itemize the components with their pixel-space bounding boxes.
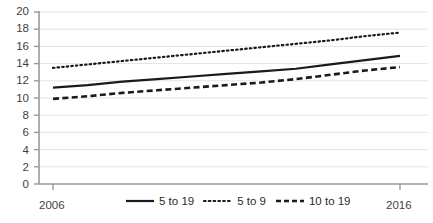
chart-canvas	[0, 0, 433, 223]
ytick-label-16: 16	[5, 41, 29, 52]
legend-key-dashed-icon	[275, 196, 305, 206]
legend-label-5-to-19: 5 to 19	[159, 195, 194, 207]
legend-entry-5-to-19[interactable]: 5 to 19	[125, 195, 194, 207]
legend-label-10-to-19: 10 to 19	[309, 195, 351, 207]
xtick-label-2016: 2016	[386, 199, 412, 211]
ytick-label-10: 10	[5, 93, 29, 104]
ytick-label-18: 18	[5, 23, 29, 34]
data-series	[53, 33, 400, 99]
legend-key-solid-icon	[125, 196, 155, 206]
ytick-label-4: 4	[5, 145, 29, 156]
ytick-label-6: 6	[5, 127, 29, 138]
ytick-label-0: 0	[5, 179, 29, 190]
chart-legend: 5 to 19 5 to 9 10 to 19	[125, 195, 351, 207]
legend-entry-10-to-19[interactable]: 10 to 19	[275, 195, 351, 207]
ytick-label-8: 8	[5, 110, 29, 121]
legend-label-5-to-9: 5 to 9	[237, 195, 266, 207]
ytick-label-2: 2	[5, 162, 29, 173]
line-chart: 20 18 16 14 12 10 8 6 4 2 0 2006 2016 5 …	[0, 0, 433, 223]
legend-key-dotted-icon	[203, 196, 233, 206]
ytick-label-12: 12	[5, 75, 29, 86]
xtick-label-2006: 2006	[39, 199, 65, 211]
ytick-label-14: 14	[5, 58, 29, 69]
legend-entry-5-to-9[interactable]: 5 to 9	[203, 195, 266, 207]
ytick-label-20: 20	[5, 6, 29, 17]
